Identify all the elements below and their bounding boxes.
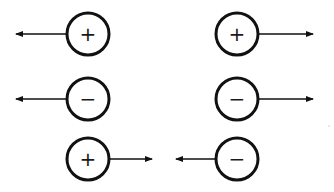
negative-sign: − (229, 87, 246, 111)
charge-negative-left-arrow: − (176, 138, 258, 180)
negative-sign: − (80, 87, 97, 111)
positive-sign: + (80, 22, 97, 46)
charge-positive-right-arrow: + (67, 138, 152, 180)
charge-negative-left-arrow: − (16, 78, 109, 120)
speck-mark (328, 125, 330, 127)
charge-positive-left-arrow: + (16, 13, 109, 55)
negative-sign: − (229, 147, 246, 171)
charge-positive-right-arrow: + (216, 13, 313, 55)
charge-negative-right-arrow: − (216, 78, 313, 120)
positive-sign: + (80, 147, 97, 171)
positive-sign: + (229, 22, 246, 46)
charge-field-diagram: + + − − + − (0, 0, 334, 192)
